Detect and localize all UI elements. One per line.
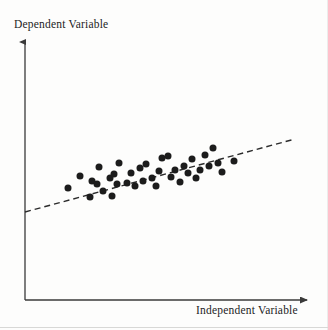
scatter-point xyxy=(193,175,200,182)
scatter-point xyxy=(149,175,156,182)
scatter-point xyxy=(116,160,123,167)
plot-canvas xyxy=(0,0,328,330)
scatter-point xyxy=(215,160,222,167)
scatter-point xyxy=(206,163,213,170)
scatter-point xyxy=(111,171,118,178)
scatter-point xyxy=(189,156,196,163)
axis-group xyxy=(25,42,307,300)
scatter-point xyxy=(231,158,238,165)
scatter-point xyxy=(143,161,150,168)
scatter-point xyxy=(87,194,94,201)
scatter-point xyxy=(65,185,72,192)
scatter-point xyxy=(197,167,204,174)
scatter-point xyxy=(185,170,192,177)
scatter-point xyxy=(159,155,166,162)
scatter-points-group xyxy=(65,145,238,201)
scatterplot-figure: Dependent Variable Independent Variable xyxy=(0,0,328,330)
scatter-point xyxy=(156,168,163,175)
scatter-point xyxy=(114,181,121,188)
scatter-point xyxy=(210,145,217,152)
scatter-point xyxy=(137,165,144,172)
scatter-point xyxy=(109,193,116,200)
scatter-point xyxy=(100,188,107,195)
scatter-point xyxy=(77,173,84,180)
scatter-point xyxy=(177,179,184,186)
scatter-point xyxy=(94,181,101,188)
scatter-point xyxy=(132,183,139,190)
scatter-point xyxy=(181,163,188,170)
scatter-point xyxy=(96,164,103,171)
scatter-point xyxy=(168,174,175,181)
trend-line-dashed xyxy=(25,139,295,212)
scatter-point xyxy=(153,183,160,190)
scatter-point xyxy=(124,180,131,187)
scatter-point xyxy=(202,152,209,159)
scatter-point xyxy=(172,167,179,174)
scatter-point xyxy=(140,178,147,185)
scatter-point xyxy=(219,169,226,176)
scatter-point xyxy=(165,153,172,160)
scatter-point xyxy=(128,170,135,177)
